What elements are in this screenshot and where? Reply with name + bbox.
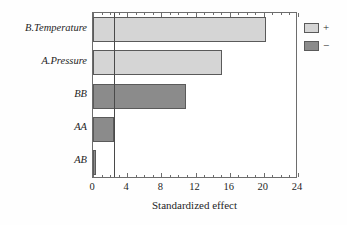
x-axis-title: Standardized effect <box>92 199 297 211</box>
legend-label-negative: − <box>323 40 329 51</box>
y-axis-label-bb: BB <box>0 89 87 100</box>
minor-tick-top <box>289 13 290 15</box>
x-tick-label-4: 4 <box>113 181 139 192</box>
minor-tick-top <box>178 13 179 15</box>
minor-tick-top <box>247 13 248 15</box>
minor-tick-top <box>110 13 111 15</box>
minor-tick-top <box>170 13 171 15</box>
legend: + − <box>304 22 344 58</box>
minor-tick-bottom <box>187 175 188 177</box>
minor-tick-bottom <box>213 175 214 177</box>
minor-tick-top <box>153 13 154 15</box>
legend-label-positive: + <box>323 22 329 33</box>
minor-tick-bottom <box>170 175 171 177</box>
minor-tick-bottom <box>204 175 205 177</box>
legend-item-positive: + <box>304 22 344 33</box>
bar-ab <box>93 150 96 175</box>
legend-swatch-negative-icon <box>304 41 319 51</box>
x-tick-label-16: 16 <box>216 181 242 192</box>
minor-tick-top <box>221 13 222 15</box>
minor-tick-bottom <box>110 175 111 177</box>
legend-item-negative: − <box>304 40 344 51</box>
minor-tick-top <box>119 13 120 15</box>
minor-tick-top <box>136 13 137 15</box>
minor-tick-top <box>213 13 214 15</box>
legend-swatch-positive-icon <box>304 23 319 33</box>
bar-b-temperature <box>93 17 266 42</box>
minor-tick-top <box>144 13 145 15</box>
pareto-chart: B.TemperatureA.PressureBBAAAB 0481216202… <box>0 0 347 225</box>
minor-tick-bottom <box>221 175 222 177</box>
minor-tick-top <box>187 13 188 15</box>
minor-tick-top <box>204 13 205 15</box>
minor-tick-top <box>281 13 282 15</box>
minor-tick-bottom <box>102 175 103 177</box>
minor-tick-top <box>255 13 256 15</box>
minor-tick-bottom <box>153 175 154 177</box>
minor-tick-bottom <box>272 175 273 177</box>
significance-reference-line <box>114 13 115 177</box>
x-tick-label-20: 20 <box>250 181 276 192</box>
minor-tick-bottom <box>119 175 120 177</box>
y-axis-label-a-pressure: A.Pressure <box>0 56 87 67</box>
major-tick-bottom <box>264 173 265 177</box>
x-tick-label-24: 24 <box>284 181 310 192</box>
major-tick-top <box>298 13 299 17</box>
major-tick-bottom <box>127 173 128 177</box>
major-tick-bottom <box>161 173 162 177</box>
minor-tick-top <box>238 13 239 15</box>
bar-a-pressure <box>93 50 222 75</box>
x-tick-label-12: 12 <box>182 181 208 192</box>
minor-tick-bottom <box>238 175 239 177</box>
minor-tick-bottom <box>136 175 137 177</box>
bar-aa <box>93 117 114 142</box>
x-tick-label-8: 8 <box>147 181 173 192</box>
y-axis-label-ab: AB <box>0 155 87 166</box>
minor-tick-bottom <box>144 175 145 177</box>
minor-tick-bottom <box>255 175 256 177</box>
minor-tick-bottom <box>281 175 282 177</box>
major-tick-bottom <box>230 173 231 177</box>
minor-tick-top <box>272 13 273 15</box>
minor-tick-bottom <box>178 175 179 177</box>
minor-tick-bottom <box>289 175 290 177</box>
y-axis-label-b-temperature: B.Temperature <box>0 23 87 34</box>
plot-area <box>92 12 297 178</box>
minor-tick-top <box>102 13 103 15</box>
major-tick-bottom <box>196 173 197 177</box>
minor-tick-bottom <box>247 175 248 177</box>
y-axis-label-aa: AA <box>0 122 87 133</box>
bar-bb <box>93 84 186 109</box>
major-tick-bottom <box>298 173 299 177</box>
x-tick-label-0: 0 <box>79 181 105 192</box>
